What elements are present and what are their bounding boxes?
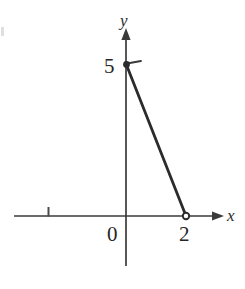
- x-axis-label: x: [227, 207, 235, 224]
- endpoint-dot-bottom: [183, 213, 189, 219]
- origin-label: 0: [107, 224, 118, 245]
- scan-edge-artifact: [1, 27, 4, 36]
- x-axis-arrowhead: [212, 211, 224, 220]
- figure-container: y x 5 0 2: [0, 0, 245, 289]
- y-tick-label-5: 5: [104, 56, 115, 77]
- coordinate-plane-figure: [0, 0, 245, 289]
- endpoint-dot-top: [123, 61, 130, 68]
- line-segment: [127, 65, 187, 216]
- x-tick-label-2: 2: [179, 224, 190, 245]
- y-axis-label: y: [120, 12, 128, 29]
